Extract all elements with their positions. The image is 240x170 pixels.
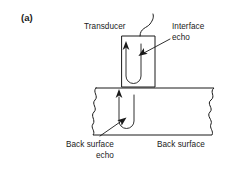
label-interface-echo-line2: echo (172, 33, 204, 44)
label-transducer: Transducer (84, 22, 126, 33)
leader-line-back-surface-echo (100, 120, 123, 136)
specimen-block-icon (92, 88, 214, 135)
label-interface-echo: Interface echo (172, 22, 204, 43)
cable-curve-icon (140, 14, 153, 36)
leader-line-interface-echo (142, 39, 170, 54)
label-back-surface-echo: Back surface echo (66, 140, 114, 161)
label-back-surface-echo-line1: Back surface (66, 140, 114, 149)
label-back-surface-echo-line2: echo (66, 151, 114, 162)
label-back-surface: Back surface (157, 140, 205, 151)
back-surface-echo-beam-icon (119, 95, 134, 128)
figure-container: (a) Transducer Interface echo Back surfa… (0, 0, 240, 170)
panel-label: (a) (21, 13, 33, 24)
interface-echo-beam-icon (126, 44, 141, 84)
label-interface-echo-line1: Interface (172, 22, 204, 31)
